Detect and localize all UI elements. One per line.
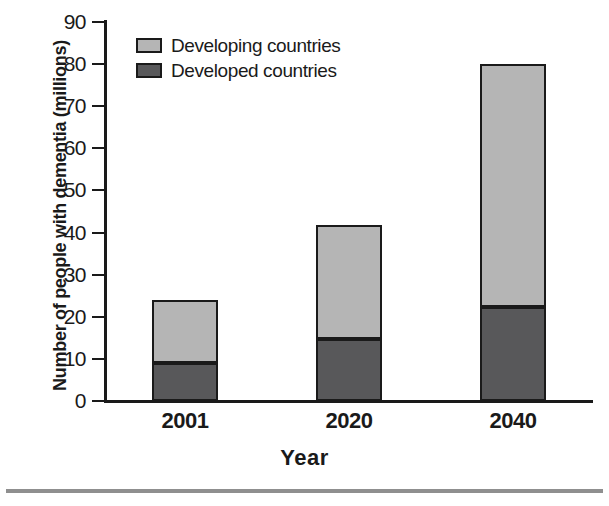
y-tick-label-wrap: 60 <box>20 137 86 158</box>
y-tick-mark <box>92 316 105 318</box>
bar-segment-developed[interactable] <box>316 339 382 401</box>
y-tick-label-wrap: 70 <box>20 95 86 116</box>
y-tick-label-wrap: 0 <box>20 390 86 411</box>
y-tick-mark <box>92 232 105 234</box>
bar-group[interactable] <box>480 0 546 401</box>
bar-segment-developing[interactable] <box>316 225 382 338</box>
y-tick-mark <box>92 400 105 402</box>
y-tick-mark <box>92 189 105 191</box>
y-tick-label: 0 <box>26 390 86 411</box>
bar-segment-developed[interactable] <box>480 307 546 401</box>
x-tick-label-2020: 2020 <box>279 408 419 434</box>
y-tick-mark <box>92 63 105 65</box>
y-tick-mark <box>92 105 105 107</box>
y-tick-label: 60 <box>26 137 86 158</box>
y-tick-label-wrap: 10 <box>20 348 86 369</box>
x-tick-label-2040: 2040 <box>443 408 583 434</box>
y-tick-label: 70 <box>26 95 86 116</box>
y-tick-label-wrap: 20 <box>20 306 86 327</box>
y-tick-label: 20 <box>26 306 86 327</box>
bottom-divider-rule <box>6 489 603 493</box>
y-tick-mark <box>92 21 105 23</box>
y-tick-label: 50 <box>26 179 86 200</box>
y-tick-label: 90 <box>26 11 86 32</box>
bar-segment-developed[interactable] <box>152 363 218 401</box>
x-axis-title: Year <box>0 445 609 471</box>
y-tick-label: 80 <box>26 53 86 74</box>
x-tick-label-2001: 2001 <box>115 408 255 434</box>
y-tick-label: 40 <box>26 222 86 243</box>
bar-segment-developing[interactable] <box>480 64 546 307</box>
y-tick-mark <box>92 274 105 276</box>
legend-label: Developed countries <box>171 61 337 80</box>
y-tick-label-wrap: 30 <box>20 264 86 285</box>
y-tick-label-wrap: 90 <box>20 11 86 32</box>
y-axis-line <box>104 20 107 402</box>
chart-legend: Developing countriesDeveloped countries <box>136 33 340 83</box>
legend-label: Developing countries <box>171 36 340 55</box>
legend-swatch-icon <box>136 38 162 53</box>
dementia-stacked-bar-chart: Number of people with dementia (millions… <box>0 0 609 506</box>
y-tick-label-wrap: 40 <box>20 222 86 243</box>
y-tick-label-wrap: 50 <box>20 179 86 200</box>
bar-segment-developing[interactable] <box>152 300 218 363</box>
y-tick-label: 10 <box>26 348 86 369</box>
y-tick-mark <box>92 358 105 360</box>
y-tick-mark <box>92 147 105 149</box>
legend-item[interactable]: Developed countries <box>136 58 340 82</box>
y-tick-label: 30 <box>26 264 86 285</box>
legend-item[interactable]: Developing countries <box>136 33 340 57</box>
y-tick-label-wrap: 80 <box>20 53 86 74</box>
legend-swatch-icon <box>136 63 162 78</box>
